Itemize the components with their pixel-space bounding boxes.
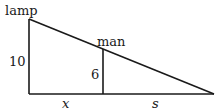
- lamp-label: lamp: [5, 3, 38, 18]
- shadow-s-label: s: [152, 96, 159, 111]
- distance-x-label: x: [62, 96, 70, 111]
- man-label: man: [97, 34, 126, 49]
- light-ray-line: [29, 19, 214, 94]
- similar-triangles-diagram: lamp man 10 6 x s: [0, 0, 223, 112]
- man-height-label: 6: [91, 67, 99, 82]
- lamp-height-label: 10: [9, 54, 26, 69]
